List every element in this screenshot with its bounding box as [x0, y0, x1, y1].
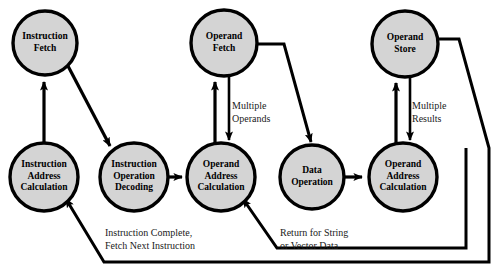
edge-label-multiple-operands: Multiple Operands — [232, 99, 270, 125]
node-operand-address-calculation-2 — [369, 143, 437, 211]
node-data-operation — [280, 145, 344, 209]
edge-label-return-for-string: Return for String or Vector Data — [280, 226, 348, 252]
node-instruction-fetch — [13, 11, 77, 75]
node-instruction-operation-decoding — [100, 143, 168, 211]
instruction-cycle-diagram: Instruction Fetch Operand Fetch Operand … — [0, 0, 501, 270]
node-operand-address-calculation-1 — [187, 143, 255, 211]
node-instruction-address-calculation — [10, 143, 78, 211]
node-operand-fetch — [191, 10, 257, 76]
edge-label-instruction-complete: Instruction Complete, Fetch Next Instruc… — [105, 226, 195, 252]
diagram-canvas — [0, 0, 501, 270]
edge-label-multiple-results: Multiple Results — [412, 99, 446, 125]
edge-operand-fetch-to-data-operation — [252, 44, 311, 142]
node-operand-store — [372, 11, 438, 77]
nodes-layer — [10, 10, 438, 211]
edge-instruction-fetch-to-decoding — [68, 66, 110, 146]
